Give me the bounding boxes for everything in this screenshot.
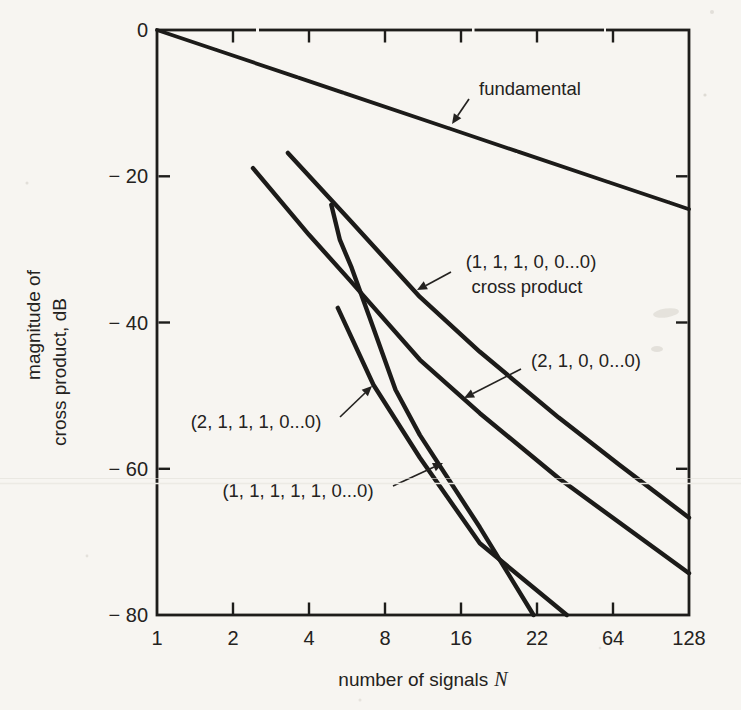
y-tick-label: − 20: [109, 165, 148, 187]
cross-product-2111-arrow: [340, 393, 365, 417]
x-tick-label: 128: [672, 627, 705, 649]
annotation-cross-product-11111: (1, 1, 1, 1, 1, 0...0): [222, 463, 443, 501]
annotation-fundamental: fundamental: [452, 78, 581, 124]
cross-product-2111-label: (2, 1, 1, 1, 0...0): [191, 411, 322, 432]
annotation-cross-product-21: (2, 1, 0, 0...0): [464, 350, 641, 398]
y-axis-title: magnitude of cross product, dB: [23, 269, 70, 446]
x-tick-label: 16: [450, 627, 472, 649]
curve-fundamental: [157, 30, 689, 209]
cross-product-111-arrow: [426, 272, 451, 286]
x-tick-label: 2: [227, 627, 238, 649]
annotation-cross-product-2111: (2, 1, 1, 1, 0...0): [191, 386, 372, 432]
fundamental-label: fundamental: [479, 78, 581, 99]
cross-product-111-label-line1: (1, 1, 1, 0, 0...0): [466, 251, 597, 272]
y-tick-label: − 40: [109, 312, 148, 334]
x-tick-label: 8: [379, 627, 390, 649]
y-tick-label: − 80: [109, 604, 148, 626]
chart-figure: 1248162264128 0− 20− 40− 60− 80 fundamen…: [0, 0, 741, 710]
x-tick-label: 1: [151, 627, 162, 649]
scanned-chart-page: 1248162264128 0− 20− 40− 60− 80 fundamen…: [0, 0, 741, 710]
x-axis-title: number of signalsN: [338, 668, 509, 690]
fundamental-arrowhead: [452, 113, 461, 124]
fundamental-arrow: [458, 99, 469, 116]
curves: [157, 30, 689, 615]
y-tick-label: 0: [137, 19, 148, 41]
annotation-cross-product-111: (1, 1, 1, 0, 0...0) cross product: [417, 251, 596, 297]
cross-product-111-label-line2: cross product: [471, 276, 582, 297]
y-tick-label: − 60: [109, 458, 148, 480]
y-axis-title-line2: cross product, dB: [49, 298, 70, 446]
cross-product-21-label: (2, 1, 0, 0...0): [531, 350, 641, 371]
y-axis-title-line1: magnitude of: [23, 269, 44, 380]
curve-1-1-1-0-0: [288, 153, 689, 518]
x-tick-label: 64: [602, 627, 624, 649]
x-tick-label: 22: [526, 627, 548, 649]
x-tick-label: 4: [303, 627, 314, 649]
